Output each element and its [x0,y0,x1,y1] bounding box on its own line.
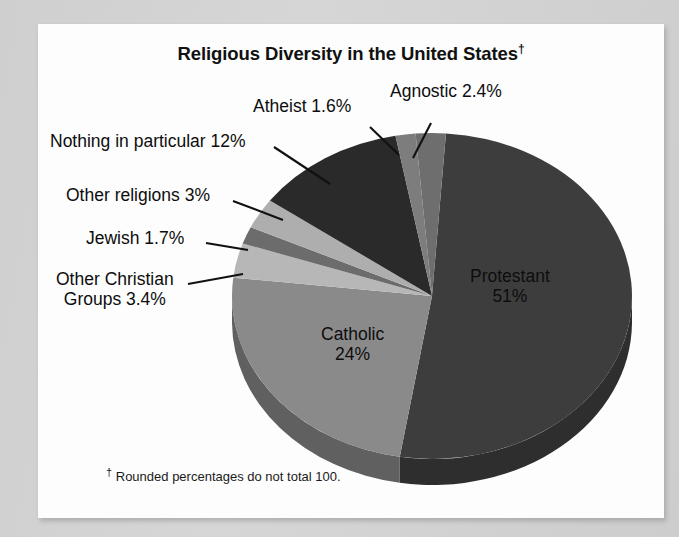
slice-label-nothing-in-particular: Nothing in particular 12% [50,132,246,152]
footnote-text: Rounded percentages do not total 100. [116,469,341,484]
other-christian-line-2: Groups 3.4% [56,290,174,310]
slice-label-other-christian-groups: Other Christian Groups 3.4% [56,270,174,310]
slice-label-other-religions: Other religions 3% [66,186,210,206]
footnote: † Rounded percentages do not total 100. [106,466,341,484]
chart-card: Religious Diversity in the United States… [38,24,664,518]
slice-label-agnostic: Agnostic 2.4% [390,82,502,102]
slice-label-protestant: Protestant 51% [470,267,550,306]
catholic-value: 24% [321,345,384,365]
pie-slices-group [232,133,632,485]
catholic-name: Catholic [321,324,384,344]
protestant-name: Protestant [470,266,550,286]
other-christian-line-1: Other Christian [56,269,174,289]
pie-slice-catholic [232,278,432,457]
protestant-value: 51% [470,287,550,307]
slice-label-atheist: Atheist 1.6% [253,97,351,117]
slice-label-catholic: Catholic 24% [321,325,384,364]
slice-label-jewish: Jewish 1.7% [86,229,184,249]
footnote-dagger-symbol: † [106,466,112,478]
